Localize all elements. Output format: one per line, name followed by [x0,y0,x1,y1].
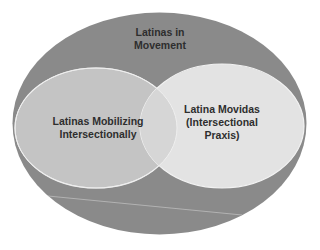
right-label-line-2: (Intersectional [172,116,272,129]
left-label-line-1: Latinas Mobilizing [38,115,158,128]
left-circle-label: Latinas Mobilizing Intersectionally [38,115,158,141]
right-label-line-1: Latina Movidas [172,103,272,116]
outer-label-line-2: Movement [110,39,210,52]
outer-label-line-1: Latinas in [110,26,210,39]
outer-circle-label: Latinas in Movement [110,26,210,52]
right-label-line-3: Praxis) [172,129,272,142]
left-label-line-2: Intersectionally [38,128,158,141]
right-circle-label: Latina Movidas (Intersectional Praxis) [172,103,272,142]
